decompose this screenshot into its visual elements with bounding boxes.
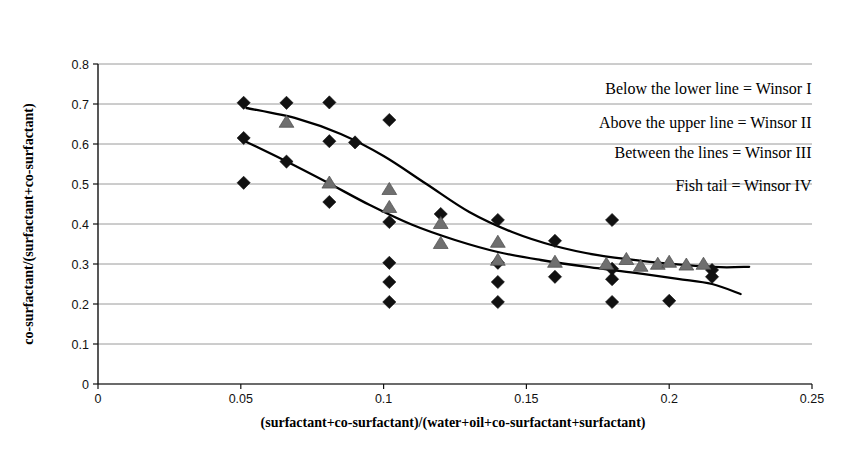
chart-background bbox=[0, 0, 862, 456]
chart-annotation: Above the upper line = Winsor II bbox=[599, 114, 811, 132]
y-tick-label: 0.4 bbox=[72, 218, 89, 232]
y-axis-title: co-surfactant/(surfactant+co-surfactant) bbox=[21, 103, 37, 345]
y-tick-label: 0.8 bbox=[72, 58, 89, 72]
chart-annotation: Below the lower line = Winsor I bbox=[605, 80, 811, 97]
chart-annotation: Fish tail = Winsor IV bbox=[675, 177, 812, 194]
x-axis-title: (surfactant+co-surfactant)/(water+oil+co… bbox=[261, 415, 646, 431]
y-tick-label: 0.3 bbox=[72, 258, 89, 272]
x-tick-label: 0.25 bbox=[800, 392, 824, 406]
y-tick-label: 0.5 bbox=[72, 178, 89, 192]
x-tick-label: 0.1 bbox=[375, 392, 392, 406]
y-tick-label: 0 bbox=[82, 378, 89, 392]
winsor-phase-scatter-plot: 00.10.20.30.40.50.60.70.8 00.050.10.150.… bbox=[0, 0, 862, 456]
y-tick-label: 0.6 bbox=[72, 138, 89, 152]
x-tick-label: 0.05 bbox=[229, 392, 253, 406]
x-tick-label: 0 bbox=[95, 392, 102, 406]
y-tick-label: 0.2 bbox=[72, 298, 89, 312]
y-tick-label: 0.1 bbox=[72, 338, 89, 352]
chart-figure: 00.10.20.30.40.50.60.70.8 00.050.10.150.… bbox=[0, 0, 862, 456]
y-tick-label: 0.7 bbox=[72, 98, 89, 112]
chart-annotation: Between the lines = Winsor III bbox=[615, 144, 812, 161]
x-tick-label: 0.15 bbox=[514, 392, 538, 406]
x-tick-label: 0.2 bbox=[661, 392, 678, 406]
